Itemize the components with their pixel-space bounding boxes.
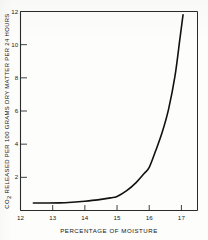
x-axis-tick-labels: 121314151617 xyxy=(17,214,185,221)
data-series-group xyxy=(33,15,183,203)
y-tick-label: 8 xyxy=(15,74,19,81)
x-tick-label: 16 xyxy=(146,214,154,221)
x-tick-label: 12 xyxy=(17,214,25,221)
y-tick-label: 12 xyxy=(11,8,19,15)
x-tick-label: 14 xyxy=(81,214,89,221)
y-axis-title-rest: RELEASED PER 100 GRAMS DRY MATTER PER 24… xyxy=(4,13,10,195)
figure-canvas: 121314151617 24681012 PERCENTAGE OF MOIS… xyxy=(0,0,208,240)
x-tick-label: 15 xyxy=(113,214,121,221)
x-axis-title: PERCENTAGE OF MOISTURE xyxy=(60,227,158,234)
y-tick-label: 6 xyxy=(15,107,19,114)
y-axis-title-prefix: CO xyxy=(4,199,10,209)
axis-frame xyxy=(21,12,198,211)
x-tick-label: 13 xyxy=(49,214,57,221)
y-axis-tick-labels: 24681012 xyxy=(11,8,19,181)
y-tick-label: 4 xyxy=(15,140,19,147)
y-axis-ticks xyxy=(21,12,28,178)
y-tick-label: 10 xyxy=(11,41,19,48)
y-tick-label: 2 xyxy=(15,173,19,180)
x-tick-label: 17 xyxy=(178,214,186,221)
series-line-co2-release xyxy=(33,15,183,203)
x-axis-ticks xyxy=(21,205,182,211)
line-chart: 121314151617 24681012 PERCENTAGE OF MOIS… xyxy=(0,0,208,240)
